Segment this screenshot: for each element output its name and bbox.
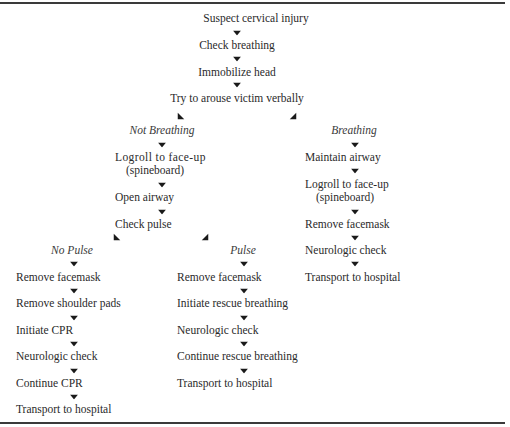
step-remove-facemask: Remove facemask xyxy=(16,271,101,284)
arrow-down-icon xyxy=(351,210,359,215)
branch-label-breathing: Breathing xyxy=(331,124,377,137)
step-try-to-arouse-victim: Try to arouse victim verbally xyxy=(170,92,304,105)
arrow-down-left-icon xyxy=(178,113,185,120)
arrow-down-icon xyxy=(158,143,166,148)
arrow-down-icon xyxy=(233,31,241,36)
arrow-down-left-icon xyxy=(114,234,121,241)
step-remove-facemask: Remove facemask xyxy=(305,218,390,231)
arrow-down-icon xyxy=(70,342,78,347)
arrow-down-icon xyxy=(233,83,241,88)
arrow-down-icon xyxy=(70,316,78,321)
arrow-down-icon xyxy=(351,169,359,174)
arrow-down-icon xyxy=(70,262,78,267)
branch-label-pulse: Pulse xyxy=(230,244,256,257)
step-continue-rescue-breathing: Continue rescue breathing xyxy=(177,350,298,363)
arrow-down-icon xyxy=(70,369,78,374)
step-logroll: Logroll to face-up xyxy=(115,151,206,164)
step-remove-shoulder-pads: Remove shoulder pads xyxy=(16,297,121,310)
arrow-down-icon xyxy=(351,262,359,267)
step-check-pulse: Check pulse xyxy=(115,218,172,231)
arrow-down-icon xyxy=(351,143,359,148)
step-initiate-cpr: Initiate CPR xyxy=(16,324,73,337)
step-immobilize-head: Immobilize head xyxy=(198,66,276,79)
arrow-down-icon xyxy=(70,395,78,400)
step-spineboard: (spineboard) xyxy=(316,191,374,204)
step-continue-cpr: Continue CPR xyxy=(16,377,83,390)
arrow-down-icon xyxy=(351,236,359,241)
step-neurologic-check: Neurologic check xyxy=(305,244,386,257)
arrow-down-icon xyxy=(240,369,248,374)
step-check-breathing: Check breathing xyxy=(199,39,275,52)
step-suspect-cervical-injury: Suspect cervical injury xyxy=(203,12,308,25)
step-maintain-airway: Maintain airway xyxy=(305,151,381,164)
arrow-down-icon xyxy=(70,289,78,294)
arrow-down-icon xyxy=(158,183,166,188)
step-neurologic-check: Neurologic check xyxy=(177,324,258,337)
step-neurologic-check: Neurologic check xyxy=(16,350,97,363)
arrow-down-icon xyxy=(240,342,248,347)
arrow-down-icon xyxy=(240,289,248,294)
arrow-down-right-icon xyxy=(290,113,297,120)
branch-label-no-pulse: No Pulse xyxy=(51,244,93,257)
step-logroll: Logroll to face-up xyxy=(305,178,389,191)
arrow-down-icon xyxy=(240,316,248,321)
bottom-rule xyxy=(0,422,505,424)
step-spineboard: (spineboard) xyxy=(126,164,184,177)
arrow-down-icon xyxy=(233,57,241,62)
step-initiate-rescue-breathing: Initiate rescue breathing xyxy=(177,297,288,310)
branch-label-not-breathing: Not Breathing xyxy=(129,124,194,137)
step-transport-to-hospital: Transport to hospital xyxy=(305,271,400,284)
arrow-down-icon xyxy=(240,262,248,267)
step-transport-to-hospital: Transport to hospital xyxy=(16,403,111,416)
arrow-down-icon xyxy=(158,210,166,215)
step-remove-facemask: Remove facemask xyxy=(177,271,262,284)
step-open-airway: Open airway xyxy=(115,191,174,204)
arrow-down-right-icon xyxy=(202,234,209,241)
top-rule xyxy=(0,2,505,4)
step-transport-to-hospital: Transport to hospital xyxy=(177,377,272,390)
